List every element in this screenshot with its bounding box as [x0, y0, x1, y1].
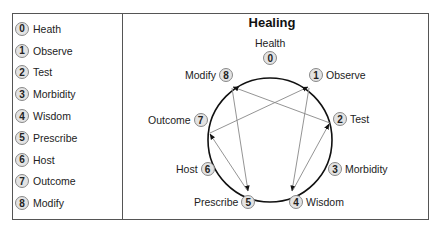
- node-label: Test: [350, 113, 369, 125]
- node-outcome: Outcome 7: [148, 113, 211, 127]
- number-badge: 1: [309, 68, 323, 82]
- arrow-4-to-2: [293, 124, 329, 190]
- number-badge: 8: [219, 68, 233, 82]
- arrow-lines: [210, 87, 330, 191]
- number-badge: 4: [289, 195, 303, 209]
- cycle-circle: [208, 78, 332, 202]
- node-label: Host: [176, 163, 198, 175]
- arrow-8-to-5: [232, 88, 248, 191]
- node-label: Observe: [326, 69, 366, 81]
- number-badge: 6: [201, 162, 215, 176]
- node-observe: 1 Observe: [306, 68, 366, 82]
- node-health: Health 0: [255, 37, 285, 65]
- node-modify: Modify 8: [185, 68, 236, 82]
- node-label: Prescribe: [194, 196, 238, 208]
- number-badge: 2: [333, 112, 347, 126]
- node-host: Host 6: [176, 162, 218, 176]
- number-badge: 5: [241, 195, 255, 209]
- number-badge: 3: [328, 162, 342, 176]
- node-label: Outcome: [148, 114, 191, 126]
- number-badge: 0: [263, 51, 277, 65]
- node-prescribe: Prescribe 5: [194, 195, 258, 209]
- arrow-2-to-8: [233, 87, 330, 123]
- node-label: Wisdom: [306, 196, 344, 208]
- arrow-7-to-1: [210, 87, 308, 133]
- node-label: Health: [255, 37, 285, 49]
- node-label: Morbidity: [345, 163, 388, 175]
- node-label: Modify: [185, 69, 216, 81]
- node-wisdom: 4 Wisdom: [286, 195, 344, 209]
- number-badge: 7: [194, 113, 208, 127]
- node-morbidity: 3 Morbidity: [325, 162, 388, 176]
- node-test: 2 Test: [330, 112, 369, 126]
